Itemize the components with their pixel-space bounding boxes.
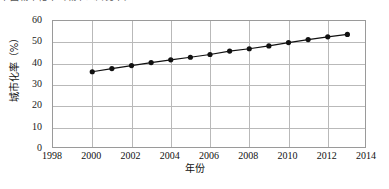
data-point-marker	[149, 60, 154, 65]
data-point-marker	[168, 57, 173, 62]
x-tick-label: 2012	[317, 150, 337, 161]
x-tick-label: 1998	[42, 150, 62, 161]
x-axis-ticks: 199820002002200420062008201020122014	[0, 150, 389, 164]
data-point-marker	[345, 32, 350, 37]
line-series-urbanization	[53, 21, 367, 149]
y-tick-label: 30	[20, 79, 42, 89]
figure-caption-text: 中国城市化率（城市人口比率）	[0, 0, 389, 2]
data-point-marker	[266, 43, 271, 48]
x-tick-label: 2004	[160, 150, 180, 161]
data-point-marker	[188, 55, 193, 60]
x-tick-label: 2014	[356, 150, 376, 161]
x-tick-label: 2000	[81, 150, 101, 161]
data-point-marker	[247, 46, 252, 51]
y-axis-ticks: 0102030405060	[22, 0, 48, 168]
y-tick-label: 40	[20, 58, 42, 68]
y-tick-label: 60	[20, 15, 42, 25]
y-tick-label: 20	[20, 100, 42, 110]
y-tick-label: 10	[20, 122, 42, 132]
data-point-marker	[286, 40, 291, 45]
x-tick-label: 2006	[199, 150, 219, 161]
data-point-marker	[227, 48, 232, 53]
y-axis-title-holder: 城市化率（%）	[0, 0, 1, 1]
figure-caption-clipped: 中国城市化率（城市人口比率）	[0, 0, 389, 7]
x-tick-label: 2010	[278, 150, 298, 161]
chart-root: 中国城市化率（城市人口比率） 0102030405060 19982000200…	[0, 0, 389, 189]
x-axis-title: 年份	[0, 163, 389, 175]
data-point-marker	[129, 63, 134, 68]
data-point-marker	[325, 34, 330, 39]
x-tick-label: 2008	[238, 150, 258, 161]
data-point-marker	[90, 69, 95, 74]
x-tick-label: 2002	[121, 150, 141, 161]
data-point-marker	[109, 66, 114, 71]
y-tick-label: 50	[20, 36, 42, 46]
data-point-marker	[207, 52, 212, 57]
plot-area	[52, 20, 366, 148]
data-point-marker	[306, 37, 311, 42]
y-axis-title: 城市化率（%）	[9, 8, 20, 128]
